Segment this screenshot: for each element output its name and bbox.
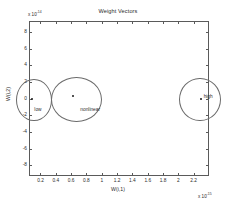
x-axis-label: W(i,1) <box>0 186 236 192</box>
annotation-label-high: high <box>204 94 213 99</box>
y-tick-mark-right <box>206 165 209 166</box>
x-axis-exponent: x 10-15 <box>198 192 212 199</box>
x-tick-mark <box>56 173 57 176</box>
y-tick-mark <box>29 65 32 66</box>
annotation-ellipse-low <box>16 79 52 121</box>
x-tick-mark-top <box>102 21 103 24</box>
x-tick-mark-top <box>148 21 149 24</box>
x-tick-mark <box>117 173 118 176</box>
data-point-high <box>200 98 202 100</box>
y-axis-exponent: x 10-14 <box>28 10 42 17</box>
y-tick-mark <box>29 132 32 133</box>
x-tick-mark <box>178 173 179 176</box>
x-tick-mark-top <box>56 21 57 24</box>
data-point-low <box>31 98 33 100</box>
y-tick-label: 4 <box>13 62 27 67</box>
figure-canvas: Weight Vectors x 10-14 x 10-15 0.20.40.6… <box>0 0 236 216</box>
y-exponent-prefix: x 10 <box>28 12 37 17</box>
y-tick-label: -6 <box>13 146 27 151</box>
y-tick-label: 8 <box>13 29 27 34</box>
x-tick-mark-top <box>117 21 118 24</box>
y-tick-label: 6 <box>13 46 27 51</box>
x-tick-label: 2.2 <box>184 178 204 183</box>
y-tick-mark <box>29 49 32 50</box>
y-tick-label: -4 <box>13 129 27 134</box>
y-axis-label: W(i,2) <box>5 74 11 114</box>
x-tick-mark <box>71 173 72 176</box>
y-tick-mark-right <box>206 132 209 133</box>
x-tick-mark-top <box>163 21 164 24</box>
x-tick-mark <box>86 173 87 176</box>
y-tick-label: -8 <box>13 162 27 167</box>
x-tick-mark-top <box>71 21 72 24</box>
annotation-label-low: low <box>34 107 41 112</box>
x-tick-mark-top <box>194 21 195 24</box>
y-tick-mark-right <box>206 149 209 150</box>
y-tick-mark <box>29 149 32 150</box>
y-tick-mark-right <box>206 65 209 66</box>
y-tick-mark <box>29 165 32 166</box>
x-tick-mark <box>163 173 164 176</box>
x-tick-mark-top <box>132 21 133 24</box>
x-exponent-prefix: x 10 <box>198 194 207 199</box>
x-exponent-value: -15 <box>207 192 212 196</box>
x-tick-mark <box>132 173 133 176</box>
y-tick-mark-right <box>206 32 209 33</box>
x-tick-mark <box>148 173 149 176</box>
x-tick-mark-top <box>86 21 87 24</box>
x-tick-mark-top <box>40 21 41 24</box>
annotation-label-nonlinear: nonlinear <box>80 107 100 112</box>
x-tick-mark-top <box>178 21 179 24</box>
y-tick-mark <box>29 32 32 33</box>
y-exponent-value: -14 <box>37 10 42 14</box>
x-tick-mark <box>102 173 103 176</box>
x-tick-mark <box>194 173 195 176</box>
x-tick-mark <box>40 173 41 176</box>
annotation-ellipse-nonlinear <box>51 77 102 122</box>
y-tick-mark-right <box>206 49 209 50</box>
